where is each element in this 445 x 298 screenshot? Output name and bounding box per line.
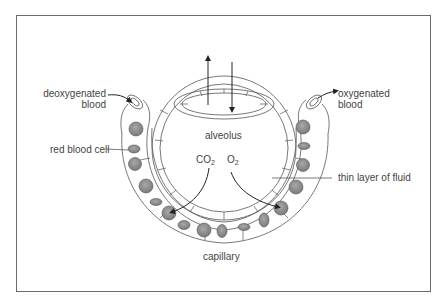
label-oxygenated-blood: oxygenated blood — [338, 88, 390, 110]
alveolus-wall — [152, 76, 296, 220]
label-deoxygenated-line1: deoxygenated — [40, 88, 106, 99]
co2-text: CO — [196, 154, 211, 165]
label-oxygenated-line1: oxygenated — [338, 88, 390, 99]
label-oxygenated-line2: blood — [338, 99, 390, 110]
vessel-ends — [125, 92, 324, 111]
co2-subscript: 2 — [211, 159, 215, 166]
label-deoxygenated-line2: blood — [40, 99, 106, 110]
label-o2: O2 — [227, 154, 239, 168]
label-red-blood-cell: red blood cell — [50, 144, 109, 155]
label-alveolus: alveolus — [205, 130, 242, 141]
label-co2: CO2 — [196, 154, 215, 168]
capillary-wall — [121, 100, 329, 243]
o2-text: O — [227, 154, 235, 165]
label-capillary: capillary — [203, 251, 240, 262]
label-deoxygenated-blood: deoxygenated blood — [40, 88, 106, 110]
o2-subscript: 2 — [235, 159, 239, 166]
label-thin-layer-of-fluid: thin layer of fluid — [338, 172, 411, 183]
